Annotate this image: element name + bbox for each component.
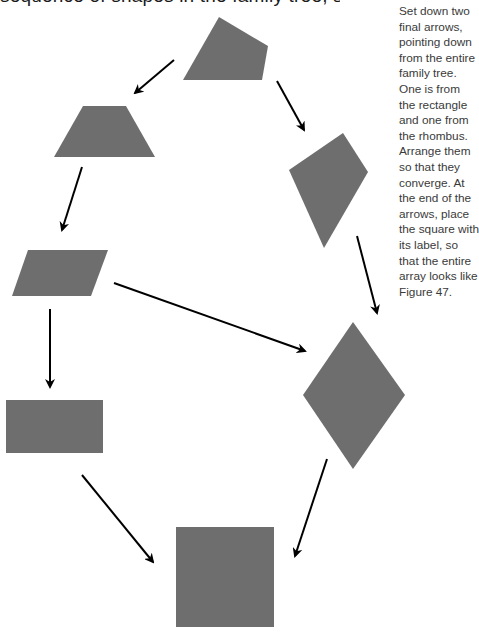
irregular-quadrilateral-shape bbox=[183, 17, 268, 80]
shapes-group bbox=[6, 17, 405, 627]
arrow-irregular-quadrilateral-to-trapezoid bbox=[135, 60, 174, 93]
arrow-kite-to-rhombus bbox=[357, 236, 377, 313]
arrow-parallelogram-to-rhombus bbox=[114, 283, 305, 351]
arrow-irregular-quadrilateral-to-kite bbox=[277, 81, 304, 130]
kite-shape bbox=[289, 133, 368, 248]
arrow-rectangle-to-square bbox=[82, 475, 153, 562]
parallelogram-shape bbox=[12, 250, 108, 296]
arrow-rhombus-to-square bbox=[295, 459, 327, 556]
rectangle-shape bbox=[6, 400, 103, 453]
instruction-text: Set down two final arrows, pointing down… bbox=[399, 4, 479, 300]
trapezoid-shape bbox=[54, 106, 155, 157]
square-shape bbox=[176, 527, 274, 627]
arrow-trapezoid-to-parallelogram bbox=[62, 167, 82, 230]
rhombus-shape bbox=[303, 322, 405, 469]
